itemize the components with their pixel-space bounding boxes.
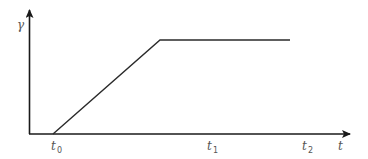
svg-text:1: 1 xyxy=(213,146,218,155)
tick-label-t2: t 2 xyxy=(302,139,313,155)
x-axis-label: t xyxy=(338,139,343,153)
ramp-curve xyxy=(53,40,290,134)
svg-text:t: t xyxy=(207,139,212,153)
tick-label-t1: t 1 xyxy=(207,139,218,155)
ramp-diagram: γ t t 0 t 1 t 2 xyxy=(0,0,368,159)
svg-text:t: t xyxy=(302,139,307,153)
svg-text:2: 2 xyxy=(308,146,313,155)
svg-text:0: 0 xyxy=(57,146,62,155)
svg-text:t: t xyxy=(51,139,56,153)
tick-label-t0: t 0 xyxy=(51,139,62,155)
y-axis-label: γ xyxy=(17,18,25,32)
